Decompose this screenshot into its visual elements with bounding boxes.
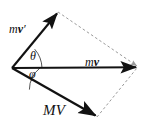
label-MV: MV (43, 103, 65, 118)
label-mv-prime-mass: m (9, 22, 18, 36)
vector-diagram-figure: mv′ mv MV θ φ (0, 0, 153, 130)
vector-diagram-canvas (0, 0, 153, 130)
label-angle-theta: θ (30, 50, 36, 62)
label-mv-velocity: v (94, 55, 99, 69)
label-angle-phi: φ (29, 68, 36, 80)
label-mv-mass: m (85, 55, 94, 69)
construction-line-MV-to-resultant (97, 68, 137, 117)
label-mv-prime: mv′ (9, 23, 26, 35)
vectors-group (12, 14, 136, 116)
label-mv: mv (85, 56, 99, 68)
label-mv-prime-mark: ′ (23, 22, 26, 36)
